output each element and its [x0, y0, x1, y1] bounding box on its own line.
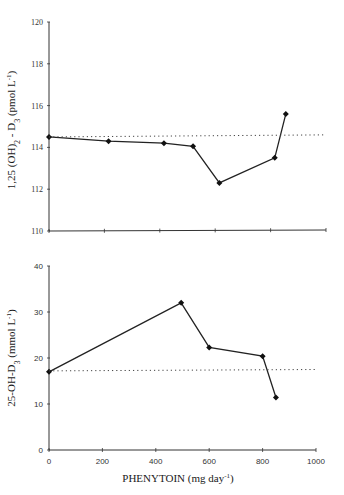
- diamond-marker-icon: [283, 111, 289, 117]
- y-tick-label: 112: [31, 185, 43, 194]
- ylabel-unit: (pmol L: [5, 80, 18, 119]
- x-tick-label: 0: [47, 457, 52, 466]
- y-tick-label: 118: [31, 60, 43, 69]
- x-tick-label: 400: [149, 457, 163, 466]
- bottom-y-axis-title: 25-OH-D3 (mmol L-1): [5, 309, 22, 407]
- diamond-marker-icon: [273, 395, 279, 401]
- bottom-chart: 010203040 02004006008001000 25-OH-D3 (mm…: [5, 262, 325, 485]
- ylabel-mid: - D: [5, 123, 17, 140]
- diamond-marker-icon: [178, 300, 184, 306]
- y-tick-label: 116: [31, 102, 43, 111]
- figure: 110112114116118120 1,25 (OH)2 - D3 (pmol…: [0, 0, 344, 495]
- top-y-axis-title: 1,25 (OH)2 - D3 (pmol L-1): [5, 71, 22, 190]
- xlabel-main: PHENYTOIN (mg day: [122, 472, 224, 485]
- diamond-marker-icon: [260, 353, 266, 359]
- top-y-ticks: 110112114116118120: [31, 18, 50, 236]
- y-tick-label: 114: [31, 143, 43, 152]
- ylabel-end: ): [5, 71, 18, 75]
- top-chart: 110112114116118120 1,25 (OH)2 - D3 (pmol…: [5, 18, 326, 236]
- bottom-x-ticks: 02004006008001000: [47, 448, 326, 466]
- x-axis-title: PHENYTOIN (mg day-1): [122, 472, 234, 485]
- y-tick-label: 0: [39, 446, 44, 455]
- y-tick-label: 40: [34, 262, 43, 271]
- y-tick-label: 30: [34, 308, 43, 317]
- data-line: [49, 114, 286, 183]
- xlabel-end: ): [230, 472, 234, 485]
- top-axes: [49, 22, 326, 231]
- diamond-marker-icon: [206, 344, 212, 350]
- baseline-dotted-line: [49, 370, 316, 371]
- data-line: [49, 303, 276, 398]
- x-axis-line: [49, 230, 326, 231]
- bottom-y-ticks: 010203040: [34, 262, 50, 455]
- x-tick-label: 600: [203, 457, 217, 466]
- top-series: [46, 111, 326, 186]
- ylabel-end: ): [5, 309, 18, 313]
- y-tick-label: 110: [31, 227, 43, 236]
- diamond-marker-icon: [106, 138, 112, 144]
- y-tick-label: 20: [34, 354, 43, 363]
- bottom-series: [46, 300, 316, 401]
- y-tick-label: 120: [31, 18, 43, 27]
- baseline-dotted-line: [49, 135, 326, 137]
- bottom-axes: [49, 266, 316, 450]
- diamond-marker-icon: [161, 140, 167, 146]
- ylabel-main: 1,25 (OH): [5, 144, 18, 190]
- x-tick-label: 800: [256, 457, 270, 466]
- diamond-marker-icon: [46, 369, 52, 375]
- x-tick-label: 1000: [307, 457, 325, 466]
- ylabel-main: 25-OH-D: [5, 364, 17, 406]
- ylabel-unit: (mmol L: [5, 319, 18, 361]
- diamond-marker-icon: [272, 155, 278, 161]
- y-tick-label: 10: [34, 400, 43, 409]
- x-tick-label: 200: [96, 457, 110, 466]
